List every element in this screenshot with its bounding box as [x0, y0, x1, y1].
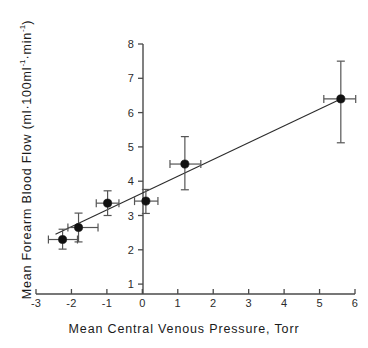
x-tick-label-7: 4 — [281, 297, 287, 309]
y-axis-title-exponent-1: -1 — [18, 59, 27, 66]
plot-area: -3-2-10123456 12345678 — [0, 0, 368, 348]
y-axis-title-exponent-2: -1 — [18, 25, 27, 32]
x-axis-title: Mean Central Venous Pressure, Torr — [0, 322, 368, 336]
y-tick-label-3: 4 — [128, 175, 134, 187]
data-point-5 — [337, 95, 345, 103]
x-tick-label-2: -1 — [102, 297, 112, 309]
y-tick-label-5: 6 — [128, 107, 134, 119]
y-tick-label-2: 3 — [128, 210, 134, 222]
y-axis-ticks — [138, 44, 143, 284]
y-tick-label-7: 8 — [128, 38, 134, 50]
y-axis-title: Mean Forearm Blood Flow (ml·100ml-1·min-… — [18, 10, 33, 310]
x-tick-label-6: 3 — [246, 297, 252, 309]
y-tick-label-6: 7 — [128, 72, 134, 84]
data-point-1 — [74, 223, 82, 231]
y-tick-labels: 12345678 — [128, 38, 134, 290]
data-point-2 — [103, 199, 111, 207]
y-tick-label-4: 5 — [128, 141, 134, 153]
data-point-3 — [142, 197, 150, 205]
y-tick-label-1: 2 — [128, 244, 134, 256]
figure-scatter-plot: -3-2-10123456 12345678 Mean Central Veno… — [0, 0, 368, 348]
x-tick-labels: -3-2-10123456 — [31, 297, 358, 309]
error-bar-1 — [68, 213, 98, 242]
x-tick-label-5: 2 — [210, 297, 216, 309]
x-tick-label-1: -2 — [66, 297, 76, 309]
x-tick-label-3: 0 — [139, 297, 145, 309]
y-axis-title-mid: ·min — [20, 32, 34, 60]
data-point-0 — [58, 235, 66, 243]
data-point-4 — [181, 160, 189, 168]
x-tick-label-4: 1 — [175, 297, 181, 309]
x-axis-ticks — [36, 289, 355, 294]
error-bars — [48, 61, 355, 249]
regression-line — [55, 99, 340, 234]
y-tick-label-0: 1 — [128, 278, 134, 290]
y-axis-title-lead: Mean Forearm Blood Flow (ml·100ml — [20, 67, 34, 300]
y-axis-title-tail: ) — [20, 20, 34, 25]
x-tick-label-9: 6 — [352, 297, 358, 309]
x-tick-label-8: 5 — [316, 297, 322, 309]
